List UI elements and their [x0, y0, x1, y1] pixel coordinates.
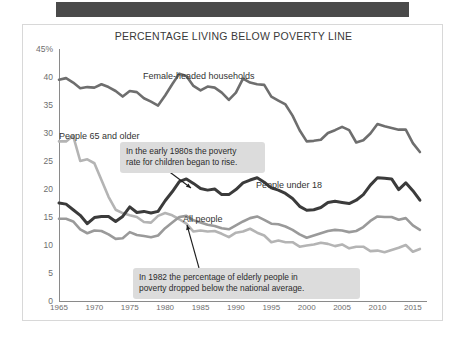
annotation-arrow-line [187, 225, 199, 268]
annotation-callout: In the early 1980s the poverty rate for … [120, 142, 265, 173]
series-label: All people [183, 214, 223, 224]
series-label: Female-headed households [143, 71, 255, 81]
top-band-fill [54, 0, 411, 19]
chart-card: PERCENTAGE LIVING BELOW POVERTY LINE 051… [22, 24, 443, 321]
annotation-callout: In 1982 the percentage of elderly people… [133, 268, 360, 299]
screenshot-root: PERCENTAGE LIVING BELOW POVERTY LINE 051… [0, 0, 465, 342]
series-label: People under 18 [256, 180, 322, 190]
top-dark-band [0, 0, 465, 22]
plot-area: 051015202530354045% 19651970197519801985… [23, 25, 444, 322]
series-label: People 65 and older [59, 131, 140, 141]
